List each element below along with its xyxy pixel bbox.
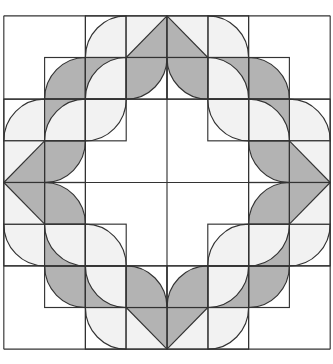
light-quarter-circle xyxy=(289,224,330,266)
light-quarter-circle xyxy=(85,308,126,350)
dark-quarter-circle xyxy=(167,58,208,100)
light-quarter-circle xyxy=(4,99,45,141)
dark-quarter-circle xyxy=(249,58,290,100)
light-quarter-circle xyxy=(4,224,45,266)
dark-quarter-circle xyxy=(249,266,290,308)
dark-quarter-circle xyxy=(45,266,86,308)
grid-lines xyxy=(4,16,330,349)
light-quarter-circle xyxy=(208,16,249,58)
light-quarter-circle xyxy=(85,224,126,266)
quilt-diagram xyxy=(3,15,331,350)
dark-quarter-circle xyxy=(126,266,167,308)
light-quarter-circle xyxy=(289,99,330,141)
dark-quarter-circle xyxy=(45,183,86,225)
light-quarter-circle xyxy=(208,99,249,141)
light-quarter-circle xyxy=(208,308,249,350)
dark-quarter-circle xyxy=(167,266,208,308)
dark-quarter-circle xyxy=(45,141,86,183)
light-quarter-circle xyxy=(85,99,126,141)
dark-quarter-circle xyxy=(126,58,167,100)
light-quarter-circle xyxy=(85,16,126,58)
dark-quarter-circle xyxy=(249,183,290,225)
dark-quarter-circle xyxy=(45,58,86,100)
dark-quarter-circle xyxy=(249,141,290,183)
light-quarter-circle xyxy=(208,224,249,266)
